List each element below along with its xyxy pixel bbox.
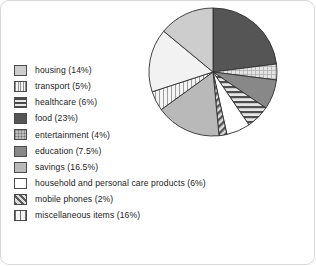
legend-swatch-housing xyxy=(14,65,27,76)
legend-label-savings: savings (16.5%) xyxy=(35,163,98,172)
legend-label-food: food (23%) xyxy=(35,114,78,123)
legend-label-transport: transport (5%) xyxy=(35,82,91,91)
legend-label-healthcare: healthcare (6%) xyxy=(35,98,97,107)
legend-label-entertainment: entertainment (4%) xyxy=(35,131,110,140)
legend-label-education: education (7.5%) xyxy=(35,147,102,156)
legend-item-mobile-phones[interactable]: mobile phones (2%) xyxy=(14,192,264,208)
legend-label-housing: housing (14%) xyxy=(35,66,92,75)
legend-label-miscellaneous-items: miscellaneous items (16%) xyxy=(35,211,140,220)
legend-item-transport[interactable]: transport (5%) xyxy=(14,78,264,94)
legend-item-healthcare[interactable]: healthcare (6%) xyxy=(14,94,264,110)
legend-item-miscellaneous-items[interactable]: miscellaneous items (16%) xyxy=(14,208,264,224)
legend-label-mobile-phones: mobile phones (2%) xyxy=(35,195,113,204)
legend-item-education[interactable]: education (7.5%) xyxy=(14,143,264,159)
legend-swatch-entertainment xyxy=(14,129,27,140)
legend-item-entertainment[interactable]: entertainment (4%) xyxy=(14,127,264,143)
legend-swatch-household xyxy=(14,178,27,189)
chart-legend: housing (14%)transport (5%)healthcare (6… xyxy=(14,62,264,224)
legend-swatch-healthcare xyxy=(14,97,27,108)
legend-swatch-food xyxy=(14,113,27,124)
pie-chart-figure: housing (14%)transport (5%)healthcare (6… xyxy=(0,0,316,266)
legend-item-housing[interactable]: housing (14%) xyxy=(14,62,264,78)
legend-swatch-education xyxy=(14,146,27,157)
legend-item-household[interactable]: household and personal care products (6%… xyxy=(14,175,264,191)
legend-item-savings[interactable]: savings (16.5%) xyxy=(14,159,264,175)
legend-swatch-transport xyxy=(14,81,27,92)
legend-swatch-mobile-phones xyxy=(14,194,27,205)
legend-swatch-miscellaneous-items xyxy=(14,210,27,221)
legend-label-household: household and personal care products (6%… xyxy=(35,179,206,188)
legend-swatch-savings xyxy=(14,162,27,173)
legend-item-food[interactable]: food (23%) xyxy=(14,111,264,127)
